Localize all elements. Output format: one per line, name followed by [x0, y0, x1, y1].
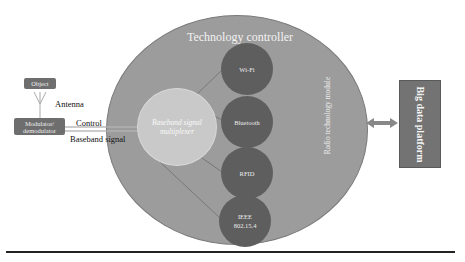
node-bluetooth: Bluetooth [221, 96, 273, 148]
big-data-platform-label: Big data platform [415, 86, 426, 162]
control-label: Control [76, 118, 102, 128]
radio-module-label: Radio technology module [318, 60, 338, 170]
node-rfid-label: RFID [240, 169, 255, 178]
node-rfid: RFID [221, 147, 273, 199]
modulator-box: Modulator/ demodulator [14, 118, 65, 135]
node-bluetooth-label: Bluetooth [234, 118, 260, 127]
antenna-label: Antenna [55, 99, 84, 109]
node-ieee-label: IEEE 802.15.4 [229, 212, 261, 230]
baseband-signal-label: Baseband signal [70, 134, 125, 144]
bottom-divider [6, 251, 455, 253]
node-wifi-label: Wi-Fi [239, 65, 254, 74]
modulator-label: Modulator/ demodulator [18, 120, 62, 134]
baseband-multiplexer: Baseband signal multiplexer [137, 88, 217, 166]
object-label: Object [31, 80, 48, 87]
node-ieee: IEEE 802.15.4 [219, 195, 271, 247]
radio-module-text: Radio technology module [324, 76, 333, 154]
big-data-platform: Big data platform [399, 80, 441, 168]
object-box: Object [24, 78, 56, 89]
node-wifi: Wi-Fi [221, 43, 273, 95]
baseband-multiplexer-label: Baseband signal multiplexer [138, 118, 216, 136]
